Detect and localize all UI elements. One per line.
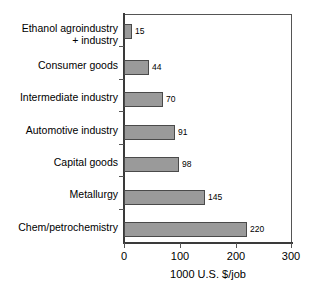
- category-axis-labels: Ethanol agroindustry + industry Consumer…: [0, 14, 118, 243]
- bars-layer: [124, 14, 292, 243]
- x-axis-title: 1000 U.S. $/job: [124, 268, 292, 281]
- category-label-intermediate-industry: Intermediate industry: [0, 91, 118, 103]
- bar-value-label-consumer-goods: 44: [152, 63, 161, 72]
- x-axis-tick-300: [291, 243, 292, 248]
- bar-value-label-automotive-industry: 91: [178, 128, 187, 137]
- bar-value-label-ethanol-agroindustry: 15: [135, 27, 144, 36]
- x-axis-tick-label-0: 0: [104, 250, 144, 263]
- bar-metallurgy[interactable]: [124, 190, 205, 205]
- bar-consumer-goods[interactable]: [124, 60, 149, 75]
- x-axis-tick-label-100: 100: [160, 250, 200, 263]
- bar-intermediate-industry[interactable]: [124, 92, 163, 107]
- bar-capital-goods[interactable]: [124, 157, 179, 172]
- bar-automotive-industry[interactable]: [124, 125, 175, 140]
- category-label-metallurgy: Metallurgy: [0, 188, 118, 200]
- category-label-chem-petrochemistry: Chem/petrochemistry: [0, 221, 118, 233]
- category-label-ethanol-agroindustry: Ethanol agroindustry + industry: [0, 22, 118, 46]
- category-label-capital-goods: Capital goods: [0, 156, 118, 168]
- x-axis-tick-label-200: 200: [216, 250, 256, 263]
- x-axis-tick-0: [124, 243, 125, 248]
- bar-chem-petrochemistry[interactable]: [124, 222, 247, 237]
- bar-value-label-metallurgy: 145: [208, 193, 222, 202]
- bar-value-label-intermediate-industry: 70: [166, 95, 175, 104]
- bar-value-label-capital-goods: 98: [182, 160, 191, 169]
- bar-chart: Ethanol agroindustry + industry Consumer…: [0, 0, 309, 292]
- x-axis-tick-200: [236, 243, 237, 248]
- x-axis-tick-100: [180, 243, 181, 248]
- x-axis-tick-label-300: 300: [271, 250, 309, 263]
- bar-ethanol-agroindustry[interactable]: [124, 24, 132, 39]
- category-label-consumer-goods: Consumer goods: [0, 59, 118, 71]
- category-label-automotive-industry: Automotive industry: [0, 124, 118, 136]
- bar-value-label-chem-petrochemistry: 220: [250, 225, 264, 234]
